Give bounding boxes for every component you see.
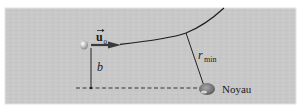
velocity-label-u: u [96, 30, 103, 44]
diagram-panel [5, 8, 296, 104]
nucleus [199, 83, 215, 95]
velocity-label-subscript: 0 [104, 38, 108, 46]
nucleus-label: Noyau [222, 83, 252, 95]
alpha-particle [80, 41, 88, 50]
nucleus-highlight [201, 90, 207, 93]
min-distance-label-r: r [198, 48, 203, 62]
min-distance-label-subscript: min [204, 55, 216, 64]
impact-parameter-label: b [97, 60, 103, 74]
impact-parameter-endpoint [90, 87, 93, 90]
rutherford-scattering-diagram: u 0 b r min Noyau [0, 0, 301, 111]
